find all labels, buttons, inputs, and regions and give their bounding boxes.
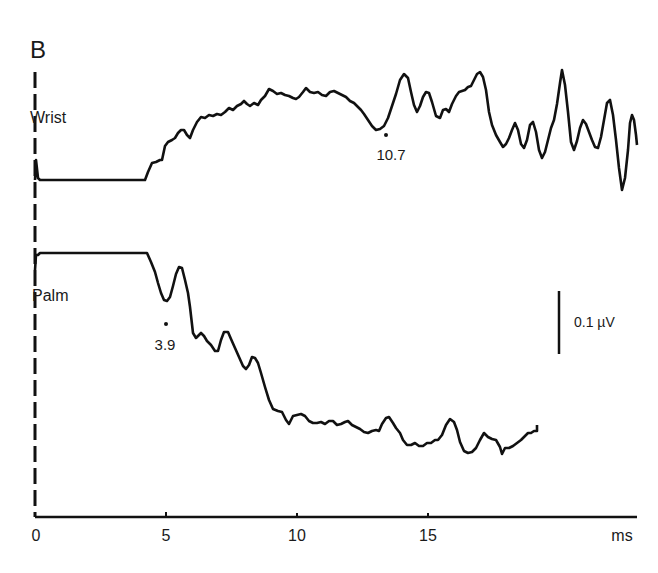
palm-peak-latency: 3.9 bbox=[155, 336, 176, 353]
x-tick-label-5: 5 bbox=[162, 527, 171, 545]
palm-trough-marker bbox=[164, 322, 168, 326]
panel-label: B bbox=[30, 36, 46, 64]
evoked-potential-figure bbox=[0, 0, 658, 573]
wrist-peak-latency: 10.7 bbox=[376, 146, 405, 163]
x-axis-unit-label: ms bbox=[611, 527, 632, 545]
palm-trace-label: Palm bbox=[32, 287, 68, 305]
wrist-trace bbox=[35, 70, 637, 190]
x-tick-label-0: 0 bbox=[32, 527, 41, 545]
wrist-trace-label: Wrist bbox=[30, 109, 66, 127]
scale-bar-label: 0.1 µV bbox=[574, 314, 615, 330]
wrist-trough-marker bbox=[384, 133, 388, 137]
palm-trace bbox=[35, 253, 537, 454]
x-tick-label-10: 10 bbox=[288, 527, 306, 545]
x-tick-label-15: 15 bbox=[419, 527, 437, 545]
